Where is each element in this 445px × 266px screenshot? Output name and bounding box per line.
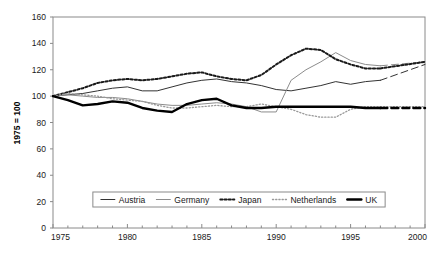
y-tick-label: 20 xyxy=(37,197,47,207)
x-tick-label: 2000 xyxy=(408,232,427,242)
y-tick-label: 100 xyxy=(32,91,46,101)
y-tick-label: 0 xyxy=(41,223,46,233)
x-tick-label: 1985 xyxy=(192,232,211,242)
y-tick-label: 80 xyxy=(37,118,47,128)
x-tick-label: 1975 xyxy=(51,232,70,242)
chart-background xyxy=(0,0,445,266)
legend-label-netherlands: Netherlands xyxy=(290,195,336,205)
legend-label-germany: Germany xyxy=(174,195,210,205)
x-tick-label: 1990 xyxy=(267,232,286,242)
x-tick-label: 1980 xyxy=(118,232,137,242)
y-tick-label: 160 xyxy=(32,12,46,22)
chart-legend: AustriaGermanyJapanNetherlandsUK xyxy=(93,192,385,207)
y-tick-label: 60 xyxy=(37,144,47,154)
y-tick-label: 140 xyxy=(32,38,46,48)
y-tick-label: 120 xyxy=(32,65,46,75)
line-chart: 1975 = 100 020406080100120140160 1975198… xyxy=(0,0,445,266)
chart-svg: 1975 = 100 020406080100120140160 1975198… xyxy=(0,0,445,266)
legend-label-uk: UK xyxy=(365,195,377,205)
y-tick-label: 40 xyxy=(37,170,47,180)
legend-label-austria: Austria xyxy=(119,195,146,205)
y-axis-title: 1975 = 100 xyxy=(12,101,22,144)
x-tick-label: 1995 xyxy=(341,232,360,242)
legend-label-japan: Japan xyxy=(238,195,261,205)
